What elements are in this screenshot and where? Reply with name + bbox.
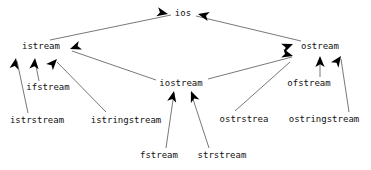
node-ostrstrea: ostrstrea (220, 114, 269, 124)
node-iostream: iostream (159, 78, 202, 88)
edge-strstream-to-iostream (191, 93, 209, 148)
node-ios: ios (175, 8, 191, 18)
node-strstream: strstream (198, 150, 247, 160)
node-istream: istream (22, 41, 60, 51)
arrowhead-to-istream (29, 58, 39, 70)
node-istringstream: istringstream (91, 115, 161, 125)
node-istrstream: istrstream (10, 115, 64, 125)
node-ostream: ostream (301, 41, 339, 51)
node-ostringstream: ostringstream (289, 114, 359, 124)
class-hierarchy-diagram: iosistreamostreamiostreamifstreamofstrea… (0, 0, 371, 170)
edge-ostream-to-ios (196, 16, 301, 41)
edge-istream-to-ios (50, 15, 171, 40)
node-ifstream: ifstream (26, 82, 69, 92)
arrowhead-to-iostream (187, 89, 200, 103)
edge-ostrstrea-to-ostream (235, 62, 290, 111)
arrowhead-to-istream (68, 41, 81, 53)
edge-iostream-to-ostream (208, 57, 292, 79)
edge-iostream-to-istream (72, 51, 156, 80)
node-fstream: fstream (140, 150, 178, 160)
arrowhead-to-ios (197, 10, 210, 21)
node-ofstream: ofstream (287, 78, 330, 88)
arrowhead-to-ostream (281, 40, 295, 53)
edge-fstream-to-iostream (166, 93, 174, 148)
edge-ostringstream-to-ostream (341, 59, 349, 112)
arrowhead-to-ostream (331, 53, 345, 67)
arrowhead-to-ostream (281, 49, 294, 61)
arrowhead-to-istream (10, 57, 21, 69)
